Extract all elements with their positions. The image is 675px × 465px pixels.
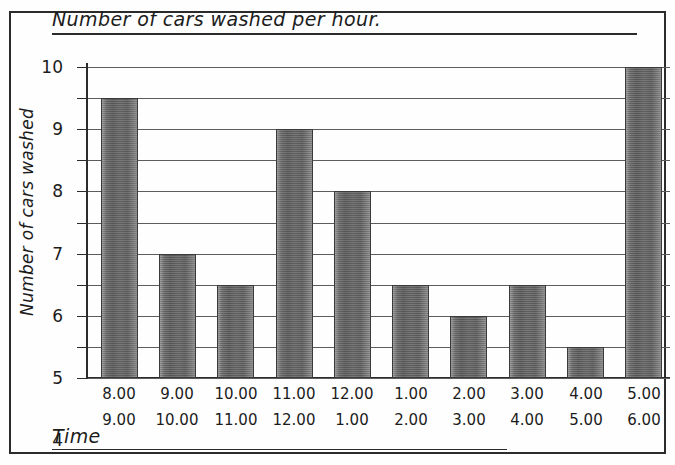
x-tick-label-8: 3.004.00 [498, 385, 556, 429]
y-tick-4: 4 [77, 254, 88, 255]
plot-area: 109876543210 [87, 67, 670, 378]
x-tick-label-start-8: 3.00 [498, 385, 556, 403]
bar-4 [276, 129, 313, 378]
y-tick-8: 8 [77, 129, 88, 130]
bar-1 [101, 98, 138, 378]
y-axis-line [86, 63, 88, 378]
x-tick-label-5: 12.001.00 [323, 385, 381, 429]
x-axis-caption-underline [52, 449, 507, 450]
bar-8 [509, 285, 546, 378]
y-tick-1: 1 [77, 347, 88, 348]
x-tick-label-end-9: 5.00 [557, 411, 615, 429]
y-tick-label-10: 10 [41, 59, 63, 76]
y-tick-7: 7 [77, 160, 88, 161]
x-tick-label-start-6: 1.00 [382, 385, 440, 403]
x-tick-label-4: 11.0012.00 [265, 385, 323, 429]
y-axis-caption-label: Number of cars washed [17, 108, 37, 316]
y-tick-label-6: 6 [52, 308, 63, 325]
bar-3 [217, 285, 254, 378]
x-tick-label-start-4: 11.00 [265, 385, 323, 403]
gridline-7 [87, 160, 670, 161]
y-tick-3: 3 [77, 285, 88, 286]
x-tick-label-end-10: 6.00 [615, 411, 673, 429]
x-tick-label-7: 2.003.00 [440, 385, 498, 429]
chart-title: Number of cars washed per hour. [52, 8, 637, 30]
bar-6 [392, 285, 429, 378]
x-tick-label-3: 10.0011.00 [207, 385, 265, 429]
worksheet-page: ¦ ¦ ¦ Number of cars washed per hour. Nu… [0, 0, 675, 465]
gridline-6 [87, 191, 670, 192]
x-tick-label-9: 4.005.00 [557, 385, 615, 429]
y-tick-label-5: 5 [52, 370, 63, 387]
gridline-5 [87, 223, 670, 224]
chart-title-block: Number of cars washed per hour. [52, 8, 637, 35]
x-tick-label-start-2: 9.00 [148, 385, 206, 403]
gridline-10 [87, 67, 670, 68]
x-tick-label-start-7: 2.00 [440, 385, 498, 403]
x-tick-label-1: 8.009.00 [90, 385, 148, 429]
x-axis-caption-block: Time [52, 425, 507, 450]
x-tick-label-start-1: 8.00 [90, 385, 148, 403]
x-tick-label-start-5: 12.00 [323, 385, 381, 403]
bar-9 [567, 347, 604, 378]
y-tick-2: 2 [77, 316, 88, 317]
x-tick-label-6: 1.002.00 [382, 385, 440, 429]
y-tick-label-9: 9 [52, 121, 63, 138]
y-tick-10: 10 [77, 67, 88, 68]
y-tick-label-8: 8 [52, 184, 63, 201]
y-tick-9: 9 [77, 98, 88, 99]
y-axis-caption: Number of cars washed [14, 62, 40, 372]
y-tick-5: 5 [77, 223, 88, 224]
gridline-9 [87, 98, 670, 99]
x-tick-label-10: 5.006.00 [615, 385, 673, 429]
x-tick-label-start-10: 5.00 [615, 385, 673, 403]
gridline-8 [87, 129, 670, 130]
bar-7 [450, 316, 487, 378]
y-tick-label-7: 7 [52, 246, 63, 263]
x-tick-label-start-3: 10.00 [207, 385, 265, 403]
bar-2 [159, 254, 196, 378]
bar-10 [625, 67, 662, 378]
y-tick-0: 0 [77, 378, 88, 379]
x-tick-label-2: 9.0010.00 [148, 385, 206, 429]
chart-title-underline [52, 33, 637, 35]
x-axis-caption-label: Time [52, 425, 507, 447]
y-tick-6: 6 [77, 191, 88, 192]
gridline-0 [87, 378, 670, 379]
x-tick-label-start-9: 4.00 [557, 385, 615, 403]
bar-5 [334, 191, 371, 378]
